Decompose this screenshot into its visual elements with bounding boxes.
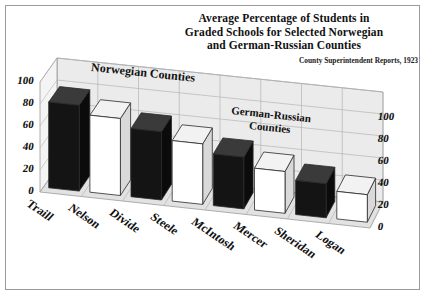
chart-page: Average Percentage of Students in Graded… bbox=[0, 0, 427, 297]
bar-front-face bbox=[255, 168, 286, 213]
y-tick-right-100: 100 bbox=[377, 110, 395, 122]
chart-svg bbox=[0, 0, 427, 297]
bar-side-face bbox=[79, 90, 90, 191]
y-tick-right-0: 0 bbox=[377, 220, 384, 232]
bar-mcintosh bbox=[213, 138, 253, 209]
bar-sheridan bbox=[296, 164, 335, 218]
bar-front-face bbox=[337, 191, 368, 222]
bar-front-face bbox=[172, 141, 203, 205]
y-tick-left-80: 80 bbox=[1, 96, 35, 108]
bar-mercer bbox=[255, 152, 295, 213]
y-tick-right-80: 80 bbox=[377, 132, 390, 144]
y-tick-left-60: 60 bbox=[1, 118, 35, 130]
bar-front-face bbox=[131, 129, 162, 201]
y-tick-left-100: 100 bbox=[1, 74, 35, 86]
y-tick-left-40: 40 bbox=[1, 140, 35, 152]
bar-front-face bbox=[49, 102, 79, 191]
bar-front-face bbox=[296, 180, 327, 217]
bar-logan bbox=[337, 175, 376, 222]
y-tick-right-20: 20 bbox=[377, 198, 390, 210]
y-tick-left-0: 0 bbox=[1, 184, 35, 196]
bar-traill bbox=[49, 87, 90, 192]
chart-plot-area bbox=[0, 0, 427, 297]
bar-steele bbox=[172, 125, 212, 205]
y-tick-left-20: 20 bbox=[1, 162, 35, 174]
bar-divide bbox=[131, 113, 172, 200]
y-tick-right-40: 40 bbox=[377, 176, 390, 188]
bar-front-face bbox=[213, 154, 244, 209]
bar-nelson bbox=[90, 100, 131, 196]
y-tick-right-60: 60 bbox=[377, 154, 390, 166]
bar-front-face bbox=[90, 115, 121, 195]
